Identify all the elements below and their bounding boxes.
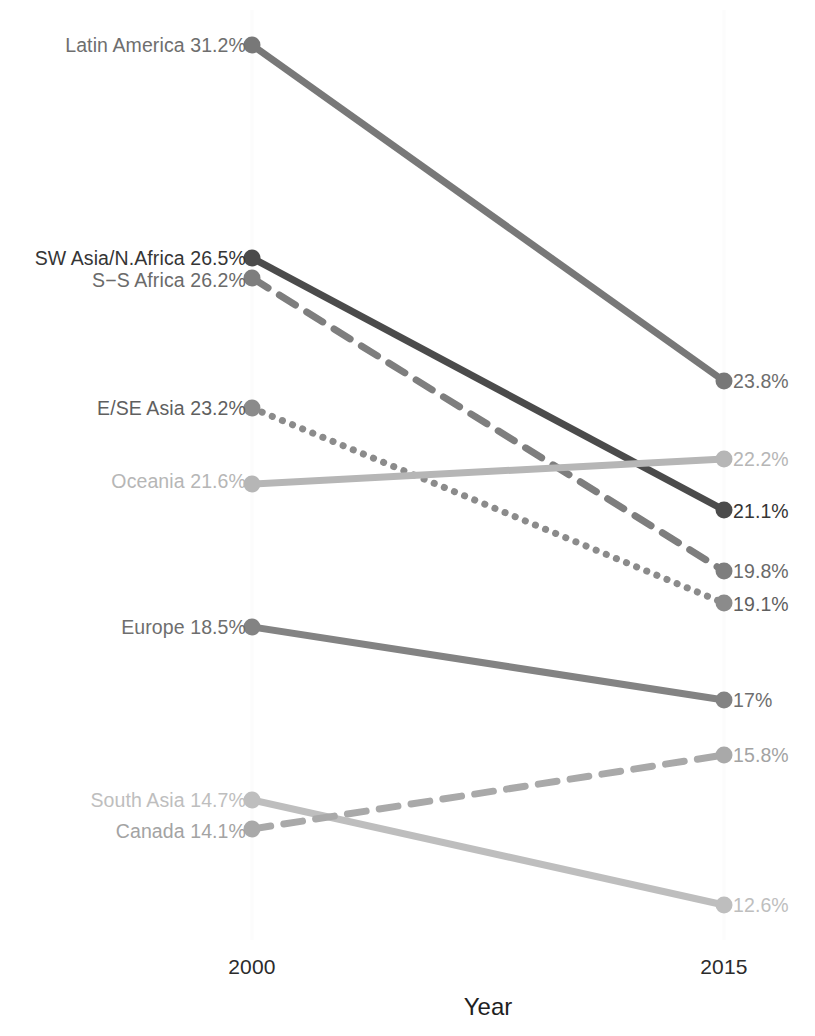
series-layer [244,37,733,914]
label-oceania-2000: Oceania 21.6% [111,470,246,493]
data-point-start [244,792,261,809]
label-canada-2000: Canada 14.1% [116,820,246,843]
data-point-start [244,250,261,267]
label-south-asia-2015: 12.6% [733,894,789,917]
series-line [252,45,724,381]
x-tick-2015: 2015 [700,955,748,979]
label-europe-2000: Europe 18.5% [121,616,246,639]
data-point-end [716,747,733,764]
series-europe [244,619,733,709]
data-point-end [716,502,733,519]
series-line [252,627,724,700]
data-point-start [244,619,261,636]
series-south-asia [244,792,733,914]
label-canada-2015: 15.8% [733,744,789,767]
plot-area [0,0,815,1036]
data-point-start [244,400,261,417]
series-latin-america [244,37,733,390]
data-point-start [244,821,261,838]
label-latin-america-2000: Latin America 31.2% [65,34,246,57]
label-s-s-africa-2015: 19.8% [733,560,789,583]
series-line [252,408,724,603]
data-point-end [716,692,733,709]
series-line [252,278,724,571]
series-e-se-asia [244,400,733,612]
label-sw-asia-n-africa-2015: 21.1% [733,500,789,523]
data-point-end [716,897,733,914]
data-point-start [244,37,261,54]
label-europe-2015: 17% [733,689,772,712]
label-sw-asia-n-africa-2000: SW Asia/N.Africa 26.5% [35,247,246,270]
data-point-end [716,451,733,468]
label-e-se-asia-2015: 19.1% [733,593,789,616]
series-s-s-africa [244,270,733,580]
slope-chart: Latin America 31.2% SW Asia/N.Africa 26.… [0,0,815,1036]
data-point-start [244,476,261,493]
label-e-se-asia-2000: E/SE Asia 23.2% [97,397,246,420]
label-s-s-africa-2000: S−S Africa 26.2% [92,269,246,292]
series-canada [244,747,733,838]
data-point-start [244,270,261,287]
data-point-end [716,563,733,580]
series-line [252,755,724,829]
x-tick-2000: 2000 [228,955,276,979]
label-oceania-2015: 22.2% [733,448,789,471]
label-latin-america-2015: 23.8% [733,370,789,393]
label-south-asia-2000: South Asia 14.7% [90,789,246,812]
data-point-end [716,373,733,390]
x-axis-title: Year [464,993,513,1021]
data-point-end [716,595,733,612]
